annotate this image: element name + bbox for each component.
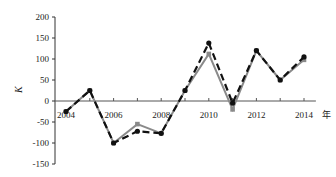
- x-tick-label: 2012: [247, 110, 265, 120]
- y-tick-label: 50: [40, 75, 50, 85]
- y-tick-label: -150: [33, 159, 50, 169]
- data-point-marker: [182, 88, 187, 93]
- y-tick-label: 100: [36, 54, 50, 64]
- data-point-marker: [63, 109, 68, 114]
- y-tick-label: 0: [45, 96, 50, 106]
- data-point-marker: [254, 48, 259, 53]
- data-point-marker: [111, 140, 116, 145]
- data-point-marker: [135, 129, 140, 134]
- data-point-marker: [230, 107, 235, 112]
- line-chart: 200150100500-50-100-150 2004200620082010…: [0, 0, 336, 177]
- x-tick-label: 2008: [152, 110, 171, 120]
- series-lines: [63, 40, 306, 145]
- y-axis: 200150100500-50-100-150: [33, 12, 56, 169]
- x-axis-unit: 年: [322, 109, 331, 120]
- data-point-marker: [206, 40, 211, 45]
- y-tick-label: 150: [36, 33, 50, 43]
- x-tick-label: 2010: [200, 110, 219, 120]
- y-tick-label: -100: [33, 138, 50, 148]
- series-gray-solid: [66, 51, 304, 143]
- y-axis-title: K: [13, 85, 24, 94]
- data-point-marker: [230, 101, 235, 106]
- y-tick-label: -50: [37, 117, 49, 127]
- data-point-marker: [159, 131, 164, 136]
- data-point-marker: [278, 77, 283, 82]
- data-point-marker: [87, 88, 92, 93]
- data-point-marker: [135, 122, 140, 127]
- data-point-marker: [207, 52, 212, 57]
- x-tick-label: 2006: [105, 110, 124, 120]
- x-tick-label: 2014: [295, 110, 314, 120]
- data-point-marker: [301, 54, 306, 59]
- y-tick-label: 200: [36, 12, 50, 22]
